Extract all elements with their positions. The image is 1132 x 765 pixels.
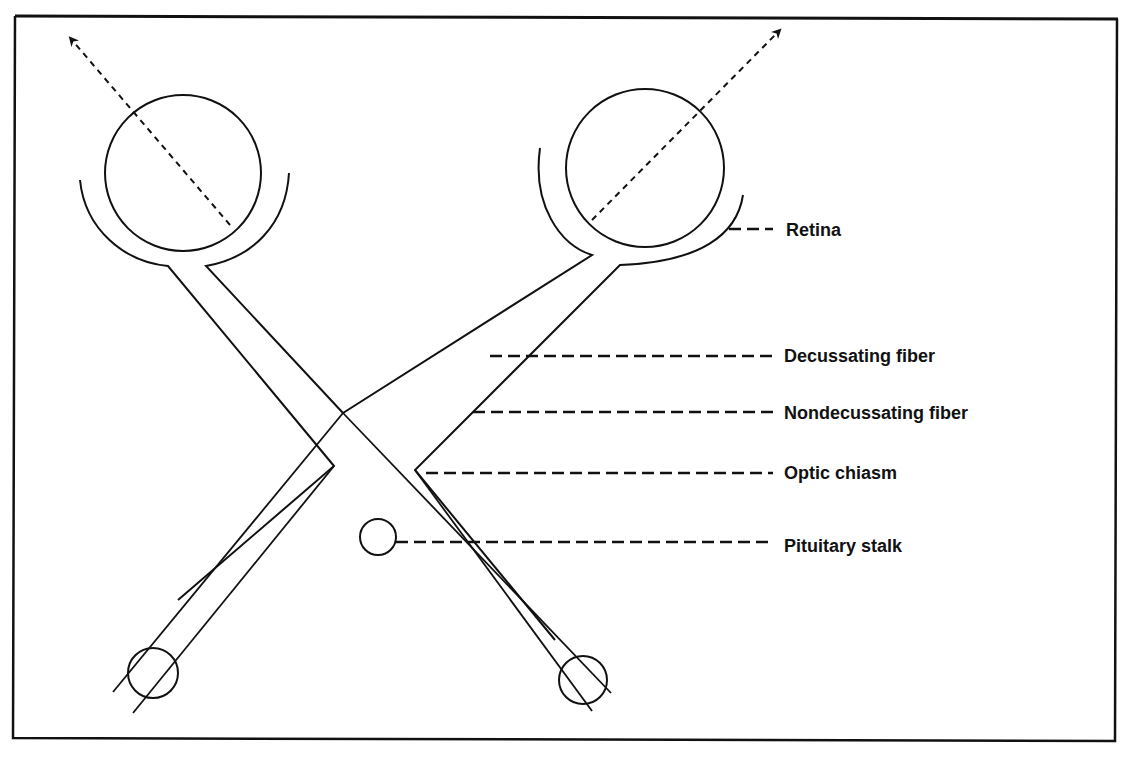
tract-ends <box>128 648 607 704</box>
leader-lines <box>396 229 773 542</box>
right-eye <box>343 32 778 640</box>
label-retina: Retina <box>786 220 841 240</box>
decussating-fibers <box>113 266 611 713</box>
label-pituitary-stalk: Pituitary stalk <box>784 536 902 556</box>
label-optic-chiasm: Optic chiasm <box>784 463 897 483</box>
label-decussating-fiber: Decussating fiber <box>784 346 935 366</box>
left-eye <box>72 40 343 600</box>
optic-chiasm-diagram <box>0 0 1132 765</box>
pituitary-stalk-circle <box>360 519 396 555</box>
label-nondecussating-fiber: Nondecussating fiber <box>784 403 968 423</box>
figure-frame <box>13 16 1118 741</box>
